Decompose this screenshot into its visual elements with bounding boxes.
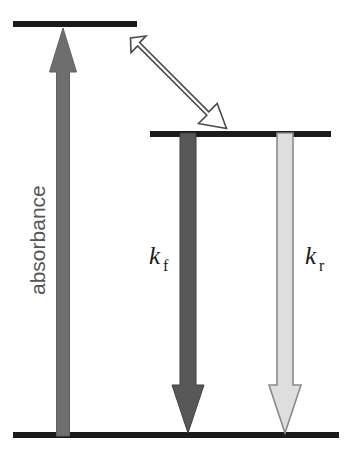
- kf-label-subscript: f: [163, 257, 169, 274]
- intermediate-energy-level-bar: [150, 131, 331, 137]
- diagram-canvas: absorbance k f k r: [0, 0, 355, 458]
- kr-label-base: k: [305, 242, 317, 269]
- absorbance-label: absorbance: [26, 185, 49, 295]
- internal-conversion-arrow: [131, 36, 227, 129]
- kr-label-subscript: r: [319, 257, 325, 274]
- kr-label: k r: [305, 242, 325, 274]
- absorbance-arrow: [50, 28, 77, 436]
- kf-label-base: k: [149, 242, 161, 269]
- kf-label: k f: [149, 242, 169, 274]
- kf-arrow: [172, 133, 204, 433]
- energy-level-diagram: absorbance k f k r: [0, 0, 355, 458]
- upper-energy-level-bar: [13, 21, 137, 27]
- kr-arrow: [269, 133, 301, 433]
